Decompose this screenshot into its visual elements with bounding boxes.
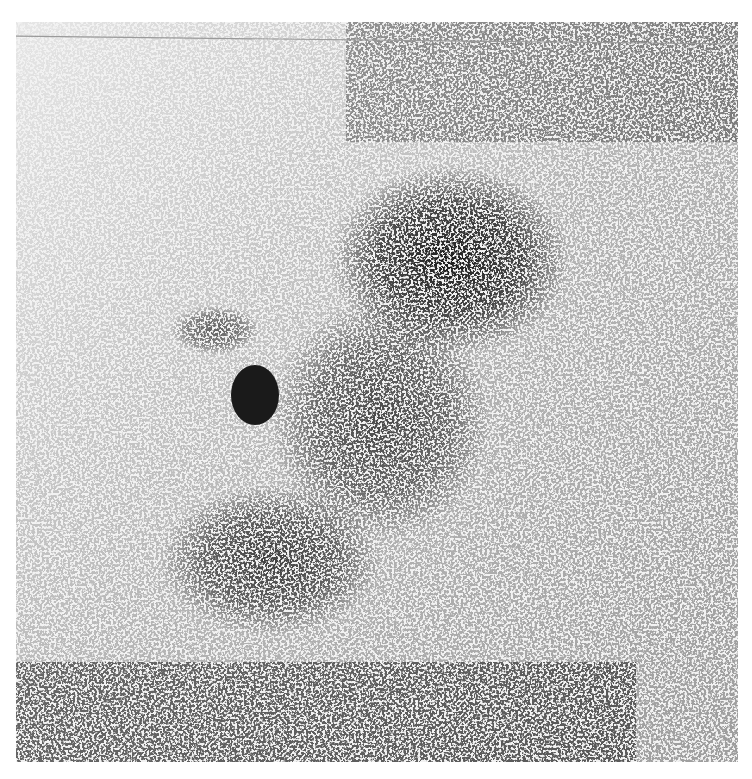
left-arm <box>170 305 260 355</box>
dense-spot <box>231 365 279 425</box>
scan-line <box>16 22 738 82</box>
scan-image-svg <box>16 22 738 762</box>
scan-image <box>16 22 738 762</box>
lower-left-mass <box>160 485 380 635</box>
